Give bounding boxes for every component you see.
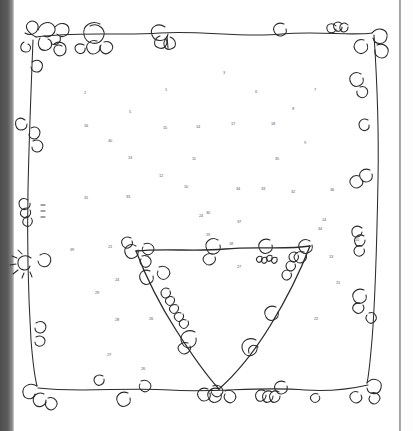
numbered-dot: 12: [159, 174, 163, 178]
numbered-dot: 11: [192, 157, 196, 161]
numbered-dot: 31: [84, 196, 88, 200]
numbered-dot: 27: [237, 265, 241, 269]
numbered-dot: 10: [184, 185, 188, 189]
numbered-dot: 29: [95, 291, 99, 295]
numbered-dot: 27: [107, 353, 111, 357]
numbered-dot: 34: [236, 187, 240, 191]
numbered-dot: 22: [314, 317, 318, 321]
doodle-drawing: [0, 0, 413, 431]
numbered-dot: 6: [255, 90, 257, 94]
numbered-dot: 36: [330, 188, 334, 192]
numbered-dot: 5: [129, 110, 131, 114]
numbered-dot: 30: [206, 211, 210, 215]
numbered-dot: 26: [149, 317, 153, 321]
numbered-dot: 37: [237, 220, 241, 224]
numbered-dot: 9: [304, 141, 306, 145]
numbered-dot: 32: [291, 190, 295, 194]
numbered-dot: 44: [318, 227, 322, 231]
numbered-dot: 14: [196, 125, 200, 129]
numbered-dot: 16: [84, 124, 88, 128]
numbered-dot: 1: [165, 88, 167, 92]
numbered-dot: 26: [141, 367, 145, 371]
numbered-dot: 33: [261, 187, 265, 191]
numbered-dot: 24: [199, 214, 203, 218]
numbered-dot: 15: [163, 126, 167, 130]
numbered-dot: 18: [271, 122, 275, 126]
numbered-dot: 10: [355, 238, 359, 242]
numbered-dot: 3: [223, 71, 225, 75]
numbered-dot: 24: [115, 278, 119, 282]
numbered-dot: 35: [275, 157, 279, 161]
page-right-margin: [401, 0, 413, 431]
numbered-dot: 14: [322, 218, 326, 222]
numbered-dot: 17: [231, 122, 235, 126]
numbered-dot: 28: [115, 318, 119, 322]
numbered-dot: 18: [229, 242, 233, 246]
numbered-dot: 21: [108, 245, 112, 249]
numbered-dot: 39: [70, 248, 74, 252]
numbered-dot: 19: [206, 233, 210, 237]
numbered-dot: 13: [128, 156, 132, 160]
numbered-dot: 7: [314, 88, 316, 92]
numbered-dot: 2: [84, 91, 86, 95]
numbered-dot: 33: [126, 195, 130, 199]
numbered-dot: 40: [108, 139, 112, 143]
numbered-dot: 21: [336, 281, 340, 285]
numbered-dot: 8: [292, 107, 294, 111]
artwork-canvas: 3216758161514171840913113512103133343332…: [0, 0, 413, 431]
numbered-dot: 13: [329, 255, 333, 259]
